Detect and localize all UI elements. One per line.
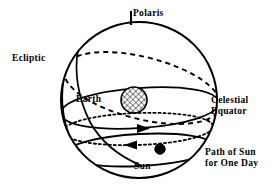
sun-disc [155, 144, 165, 154]
label-celestial-equator-line1: Celestial [211, 95, 249, 105]
label-celestial-equator: CelestialEquator [211, 95, 249, 116]
label-sun-path-line1: Path of Sun [205, 147, 256, 157]
celestial-sphere-diagram: Polaris Ecliptic Earth CelestialEquator … [0, 0, 280, 186]
label-celestial-equator-line2: Equator [211, 106, 247, 116]
label-sun-path: Path of Sunfor One Day [205, 147, 258, 168]
label-earth: Earth [76, 94, 101, 105]
label-ecliptic: Ecliptic [12, 53, 46, 64]
earth-disc [121, 87, 147, 113]
dotted-path-arrowhead-icon [137, 124, 150, 133]
label-sun-path-line2: for One Day [205, 158, 258, 168]
label-polaris: Polaris [133, 8, 164, 19]
label-sun: Sun [134, 161, 151, 172]
sun-path-arrowhead-icon [124, 141, 137, 150]
